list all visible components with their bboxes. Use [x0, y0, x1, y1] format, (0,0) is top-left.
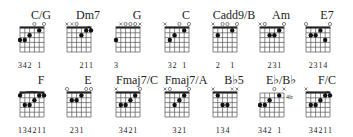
open-string-icon — [226, 22, 229, 25]
chord-name: E7 — [294, 9, 353, 22]
finger-dot — [313, 103, 317, 107]
fretboard-grid — [65, 87, 111, 125]
nut — [67, 91, 92, 93]
finger-number: 1 — [36, 61, 42, 70]
open-string-icon — [263, 22, 266, 25]
muted-string-icon — [231, 88, 234, 91]
open-string-icon — [187, 22, 190, 25]
fretboard-grid — [163, 87, 209, 125]
open-string-icon — [138, 87, 141, 90]
finger-dot — [272, 33, 276, 37]
muted-string-icon — [115, 88, 118, 91]
finger-dot — [172, 103, 176, 107]
fretboard-grid — [304, 87, 350, 125]
finger-number: 1 — [181, 61, 187, 70]
finger-number: 4 — [322, 61, 328, 70]
open-string-icon — [178, 22, 181, 25]
finger-dot — [309, 103, 313, 107]
finger-dot — [27, 33, 31, 37]
muted-string-icon — [139, 23, 142, 26]
fretboard-grid — [114, 22, 160, 60]
finger-dot — [37, 28, 41, 32]
open-string-icon — [282, 22, 285, 25]
finger-dot — [42, 93, 46, 97]
open-string-icon — [187, 87, 190, 90]
chord-diagram: E72314 — [304, 9, 350, 71]
finger-number: 2 — [267, 126, 273, 135]
nut — [306, 26, 331, 28]
open-string-icon — [42, 22, 45, 25]
open-string-icon — [304, 22, 307, 25]
muted-string-icon — [259, 23, 262, 26]
finger-dot — [172, 33, 176, 37]
muted-string-icon — [236, 88, 239, 91]
finger-number: 1 — [276, 61, 282, 70]
finger-dot — [182, 28, 186, 32]
finger-number: 1 — [88, 61, 94, 70]
fretboard-grid — [114, 87, 160, 125]
finger-dot — [168, 38, 172, 42]
finger-dot — [79, 33, 83, 37]
nut — [116, 91, 141, 93]
finger-dot — [177, 98, 181, 102]
muted-string-icon — [164, 88, 167, 91]
finger-dot — [18, 93, 22, 97]
finger-dot — [79, 93, 83, 97]
finger-dot — [323, 93, 327, 97]
finger-dot — [225, 103, 229, 107]
finger-number: 1 — [327, 126, 333, 135]
muted-string-icon — [164, 23, 167, 26]
chord-diagram: F/C34211 — [304, 74, 350, 136]
finger-dot — [84, 28, 88, 32]
open-string-icon — [328, 22, 331, 25]
finger-dot — [37, 93, 41, 97]
finger-dot — [328, 93, 332, 97]
nut — [116, 26, 141, 28]
muted-string-icon — [305, 88, 308, 91]
finger-dot — [318, 98, 322, 102]
nut — [20, 26, 45, 28]
open-string-icon — [89, 87, 92, 90]
finger-dot — [23, 38, 27, 42]
finger-dot — [216, 33, 220, 37]
finger-dot — [258, 103, 262, 107]
finger-dot — [267, 98, 271, 102]
nut — [165, 26, 190, 28]
open-string-icon — [134, 22, 137, 25]
fretboard-grid — [258, 22, 304, 60]
finger-number: 1 — [41, 126, 47, 135]
finger-number: 1 — [132, 126, 138, 135]
muted-string-icon — [66, 23, 69, 26]
finger-dot — [277, 93, 281, 97]
open-string-icon — [129, 22, 132, 25]
finger-number: 1 — [181, 126, 187, 135]
finger-dot — [123, 103, 127, 107]
finger-dot — [133, 93, 137, 97]
muted-string-icon — [212, 88, 215, 91]
nut — [213, 91, 238, 93]
fret-position-label: 4fr — [286, 94, 293, 100]
fretboard-grid — [18, 22, 64, 60]
open-string-icon — [85, 87, 88, 90]
finger-number: 2 — [27, 61, 33, 70]
finger-number: 1 — [78, 126, 84, 135]
finger-dot — [220, 103, 224, 107]
muted-string-icon — [70, 23, 73, 26]
finger-dot — [182, 93, 186, 97]
finger-number: 1 — [276, 126, 282, 135]
chord-name: F/C — [294, 74, 353, 87]
finger-dot — [216, 93, 220, 97]
finger-dot — [267, 33, 271, 37]
fretboard-grid — [163, 22, 209, 60]
fretboard-grid — [65, 22, 111, 60]
open-string-icon — [33, 22, 36, 25]
finger-number: 3 — [113, 61, 119, 70]
nut — [213, 26, 238, 28]
finger-dot — [277, 28, 281, 32]
finger-dot — [74, 98, 78, 102]
finger-dot — [230, 28, 234, 32]
muted-string-icon — [212, 23, 215, 26]
finger-dot — [119, 103, 123, 107]
muted-string-icon — [283, 88, 286, 91]
fretboard-grid — [304, 22, 350, 60]
